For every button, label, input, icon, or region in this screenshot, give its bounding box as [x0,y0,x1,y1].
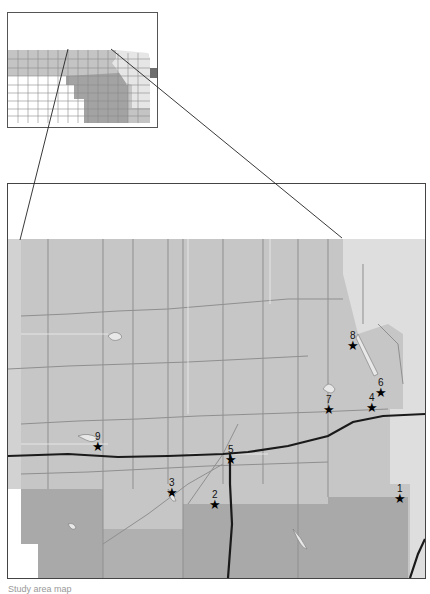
inset-locator-map [7,12,158,128]
star-icon: ★ [366,401,378,414]
map-caption: Study area map [8,584,72,594]
star-icon: ★ [225,453,237,466]
star-icon: ★ [92,440,104,453]
star-icon: ★ [209,498,221,511]
star-icon: ★ [166,486,178,499]
star-icon: ★ [394,492,406,505]
star-icon: ★ [323,403,335,416]
main-detail-map [7,183,426,579]
star-icon: ★ [375,386,387,399]
main-map-graphic [8,184,425,578]
star-icon: ★ [347,339,359,352]
inset-map-graphic [8,13,157,127]
